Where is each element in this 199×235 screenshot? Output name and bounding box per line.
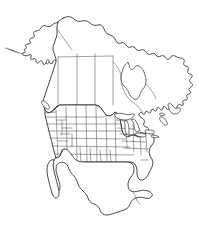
nova-scotia-outline <box>160 117 168 126</box>
prince-edward-island-outline <box>160 113 165 116</box>
map-vector-canvas <box>0 0 199 235</box>
north-america-map <box>0 0 199 235</box>
aleutian-islands-chain <box>5 48 23 54</box>
lake-ontario-outline <box>145 130 154 134</box>
kodiak-island-outline <box>46 60 49 64</box>
long-island-outline <box>151 135 159 138</box>
